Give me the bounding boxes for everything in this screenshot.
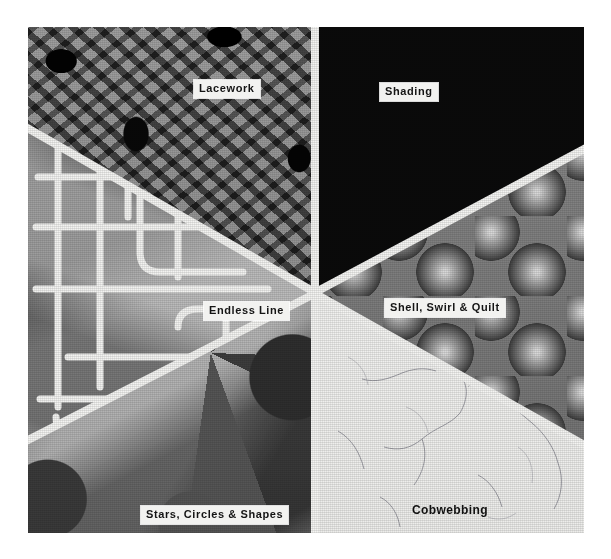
- left-half-panel: [28, 27, 312, 533]
- label-cobwebbing: Cobwebbing: [412, 504, 488, 516]
- label-shell-swirl-quilt: Shell, Swirl & Quilt: [385, 299, 505, 317]
- right-half-panel: [318, 27, 584, 533]
- label-stars-circles-shapes: Stars, Circles & Shapes: [141, 506, 288, 524]
- technique-plate: Lacework Endless Line Stars, Circles & S…: [28, 27, 584, 533]
- label-shading: Shading: [380, 83, 438, 101]
- label-endless-line: Endless Line: [204, 302, 289, 320]
- label-lacework: Lacework: [194, 80, 260, 98]
